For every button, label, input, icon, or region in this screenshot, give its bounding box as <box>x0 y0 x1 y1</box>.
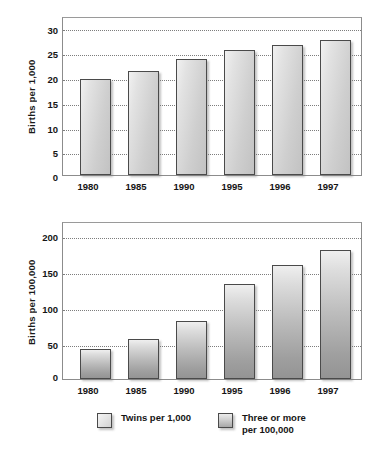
x-tick-label-top-1985: 1985 <box>112 182 160 192</box>
bar-bottom-1996 <box>272 265 303 379</box>
legend-label-three-or-more: Three or more per 100,000 <box>242 412 306 436</box>
y-tick-label-bottom-50: 50 <box>30 341 58 351</box>
x-tick-label-bottom-1980: 1980 <box>64 386 112 396</box>
legend-label-twins: Twins per 1,000 <box>121 412 191 424</box>
gridline-top-25 <box>63 55 361 56</box>
gridline-bottom-100 <box>63 310 361 311</box>
legend-item-twins: Twins per 1,000 <box>97 412 191 428</box>
x-tick-label-top-1997: 1997 <box>304 182 352 192</box>
y-tick-label-top-10: 10 <box>36 125 58 135</box>
y-tick-label-top-0: 0 <box>36 173 58 183</box>
bar-bottom-1995 <box>224 284 255 380</box>
gridline-bottom-200 <box>63 238 361 239</box>
legend-swatch-twins-icon <box>97 413 112 428</box>
plot-area-top <box>62 17 362 176</box>
y-tick-label-top-5: 5 <box>36 149 58 159</box>
plot-area-bottom <box>62 222 362 380</box>
y-tick-label-bottom-0: 0 <box>30 373 58 383</box>
chart-three-or-more-per-100000: Births per 100,000 200 150 100 50 0 1980… <box>0 205 375 400</box>
y-tick-label-top-15: 15 <box>36 100 58 110</box>
bar-top-1980 <box>80 79 111 175</box>
bar-top-1996 <box>272 45 303 175</box>
y-axis-title-bottom: Births per 100,000 <box>26 227 37 377</box>
x-tick-label-top-1980: 1980 <box>64 182 112 192</box>
twin-and-multiple-births-figure: Births per 1,000 30 25 20 15 10 5 0 1980… <box>0 0 375 452</box>
chart-twins-per-1000: Births per 1,000 30 25 20 15 10 5 0 1980… <box>0 0 375 200</box>
x-tick-label-bottom-1990: 1990 <box>160 386 208 396</box>
gridline-bottom-150 <box>63 274 361 275</box>
y-tick-label-bottom-150: 150 <box>30 269 58 279</box>
gridline-top-30 <box>63 30 361 31</box>
y-tick-label-bottom-200: 200 <box>30 233 58 243</box>
bar-top-1990 <box>176 59 207 175</box>
x-tick-label-bottom-1985: 1985 <box>112 386 160 396</box>
bar-top-1997 <box>320 40 351 175</box>
y-tick-label-bottom-100: 100 <box>30 305 58 315</box>
legend-swatch-three-or-more-icon <box>218 413 233 428</box>
x-tick-label-top-1996: 1996 <box>256 182 304 192</box>
y-tick-label-top-30: 30 <box>36 26 58 36</box>
bar-bottom-1990 <box>176 321 207 379</box>
y-tick-label-top-25: 25 <box>36 50 58 60</box>
bar-top-1985 <box>128 71 159 175</box>
x-tick-label-top-1995: 1995 <box>208 182 256 192</box>
bar-top-1995 <box>224 50 255 176</box>
y-tick-label-top-20: 20 <box>36 75 58 85</box>
bar-bottom-1985 <box>128 339 159 379</box>
legend-item-three-or-more: Three or more per 100,000 <box>218 412 306 436</box>
figure-legend: Twins per 1,000 Three or more per 100,00… <box>0 412 375 446</box>
x-tick-label-bottom-1995: 1995 <box>208 386 256 396</box>
bar-bottom-1997 <box>320 250 351 380</box>
x-tick-label-top-1990: 1990 <box>160 182 208 192</box>
x-tick-label-bottom-1997: 1997 <box>304 386 352 396</box>
gridline-bottom-50 <box>63 346 361 347</box>
bar-bottom-1980 <box>80 349 111 379</box>
x-tick-label-bottom-1996: 1996 <box>256 386 304 396</box>
